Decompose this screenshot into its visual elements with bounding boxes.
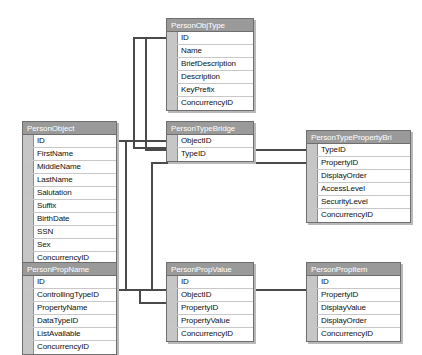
column-name: DataTypeID [34,315,116,327]
column-key-gutter [23,135,34,147]
column-key-gutter [167,148,178,161]
table-person-type-bridge[interactable]: PersonTypeBridgeObjectIDTypeID [166,121,254,162]
table-row[interactable]: MiddleName [23,161,116,174]
column-key-gutter [307,144,318,156]
table-row[interactable]: KeyPrefix [167,84,253,97]
table-row[interactable]: ConcurrencyID [23,341,116,354]
column-name: ConcurrencyID [34,341,116,354]
table-row[interactable]: ObjectID [167,289,253,302]
table-row[interactable]: AccessLevel [307,183,410,196]
relationship-line-rel-objtype-typebridge[interactable] [134,38,166,148]
table-row[interactable]: ConcurrencyID [167,97,253,110]
column-key-gutter [167,276,178,288]
table-row[interactable]: PropertyName [23,302,116,315]
column-key-gutter [167,97,178,110]
table-row[interactable]: ConcurrencyID [167,328,253,341]
table-row[interactable]: DisplayValue [307,302,400,315]
table-row[interactable]: ID [307,276,400,289]
column-name: ID [178,32,253,44]
table-title: PersonObjType [167,19,253,32]
table-column-list: TypeIDPropertyIDDisplayOrderAccessLevelS… [307,144,410,222]
table-title: PersonObject [23,122,116,135]
column-key-gutter [167,315,178,327]
table-row[interactable]: ObjectID [167,135,253,148]
table-row[interactable]: LastName [23,174,116,187]
column-key-gutter [167,32,178,44]
table-person-object[interactable]: PersonObjectIDFirstNameMiddleNameLastNam… [22,121,117,266]
table-person-prop-name[interactable]: PersonPropNameIDControllingTypeIDPropert… [22,262,117,355]
table-row[interactable]: PropertyID [307,157,410,170]
column-name: FirstName [34,148,116,160]
column-name: ConcurrencyID [318,209,410,222]
table-row[interactable]: ID [23,276,116,289]
relationship-line-rel-propname-propvalue[interactable] [117,290,166,303]
column-name: ConcurrencyID [318,328,400,341]
table-person-type-property-bridge[interactable]: PersonTypePropertyBriTypeIDPropertyIDDis… [306,130,411,223]
table-row[interactable]: ControllingTypeID [23,289,116,302]
column-key-gutter [307,157,318,169]
column-key-gutter [307,315,318,327]
table-row[interactable]: BirthDate [23,213,116,226]
table-row[interactable]: PropertyValue [167,315,253,328]
table-row[interactable]: ConcurrencyID [307,328,400,341]
column-key-gutter [23,276,34,288]
column-key-gutter [23,341,34,354]
table-row[interactable]: DataTypeID [23,315,116,328]
column-key-gutter [23,302,34,314]
table-person-obj-type[interactable]: PersonObjTypeIDNameBriefDescriptionDescr… [166,18,254,111]
column-name: ConcurrencyID [178,97,253,110]
table-row[interactable]: TypeID [307,144,410,157]
column-name: TypeID [178,148,253,161]
table-person-prop-value[interactable]: PersonPropValueIDObjectIDPropertyIDPrope… [166,262,254,342]
table-column-list: IDFirstNameMiddleNameLastNameSalutationS… [23,135,116,265]
column-name: PropertyValue [178,315,253,327]
column-key-gutter [167,71,178,83]
table-row[interactable]: PropertyID [307,289,400,302]
table-row[interactable]: Sex [23,239,116,252]
column-key-gutter [23,289,34,301]
column-key-gutter [167,328,178,341]
table-row[interactable]: Suffix [23,200,116,213]
column-key-gutter [23,174,34,186]
column-name: BirthDate [34,213,116,225]
table-person-prop-item[interactable]: PersonPropItemIDPropertyIDDisplayValueDi… [306,262,401,342]
table-row[interactable]: BriefDescription [167,58,253,71]
table-row[interactable]: SecurityLevel [307,196,410,209]
column-key-gutter [23,239,34,251]
column-key-gutter [167,135,178,147]
table-row[interactable]: ID [167,276,253,289]
table-row[interactable]: DisplayOrder [307,170,410,183]
column-name: ID [34,276,116,288]
column-name: ObjectID [178,135,253,147]
table-row[interactable]: DisplayOrder [307,315,400,328]
column-key-gutter [167,58,178,70]
table-column-list: IDPropertyIDDisplayValueDisplayOrderConc… [307,276,400,341]
column-name: Salutation [34,187,116,199]
table-row[interactable]: FirstName [23,148,116,161]
table-row[interactable]: Description [167,71,253,84]
column-key-gutter [167,84,178,96]
table-row[interactable]: Salutation [23,187,116,200]
column-name: ID [34,135,116,147]
table-row[interactable]: SSN [23,226,116,239]
column-key-gutter [23,161,34,173]
table-row[interactable]: ID [167,32,253,45]
column-name: ControllingTypeID [34,289,116,301]
table-row[interactable]: ConcurrencyID [307,209,410,222]
column-name: PropertyID [178,302,253,314]
table-row[interactable]: Name [167,45,253,58]
table-row[interactable]: ListAvailable [23,328,116,341]
column-name: SSN [34,226,116,238]
column-key-gutter [307,183,318,195]
table-row[interactable]: TypeID [167,148,253,161]
table-row[interactable]: PropertyID [167,302,253,315]
column-key-gutter [23,328,34,340]
column-name: ConcurrencyID [178,328,253,341]
column-name: Sex [34,239,116,251]
column-key-gutter [307,196,318,208]
table-row[interactable]: ID [23,135,116,148]
relationship-line-rel-object-propvalue[interactable] [117,141,166,290]
table-title: PersonPropValue [167,263,253,276]
column-name: PropertyName [34,302,116,314]
